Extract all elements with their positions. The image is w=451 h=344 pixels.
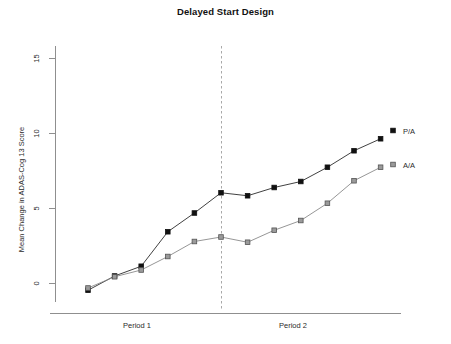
data-point-marker xyxy=(192,239,197,244)
data-point-marker xyxy=(166,254,171,259)
data-point-marker xyxy=(139,268,144,273)
data-point-marker xyxy=(86,286,91,291)
data-point-marker xyxy=(219,190,224,195)
data-point-marker xyxy=(299,179,304,184)
plot-area xyxy=(0,0,451,344)
data-point-marker xyxy=(219,235,224,240)
legend-marker-aa xyxy=(391,162,396,167)
series-pa xyxy=(86,136,383,292)
data-series-layer xyxy=(86,128,396,292)
data-point-marker xyxy=(378,165,383,170)
data-point-marker xyxy=(112,274,117,279)
axis-group xyxy=(49,46,401,314)
data-point-marker xyxy=(192,211,197,216)
chart-canvas: Delayed Start Design Mean Change in ADAS… xyxy=(0,0,451,344)
data-point-marker xyxy=(245,193,250,198)
data-point-marker xyxy=(378,136,383,141)
data-point-marker xyxy=(352,148,357,153)
legend-marker-pa xyxy=(391,128,396,133)
data-point-marker xyxy=(299,218,304,223)
data-point-marker xyxy=(272,228,277,233)
data-point-marker xyxy=(325,201,330,206)
data-point-marker xyxy=(245,240,250,245)
series-aa xyxy=(86,165,383,290)
data-point-marker xyxy=(166,229,171,234)
data-point-marker xyxy=(272,185,277,190)
data-point-marker xyxy=(325,165,330,170)
series-line xyxy=(88,139,381,291)
data-point-marker xyxy=(352,178,357,183)
